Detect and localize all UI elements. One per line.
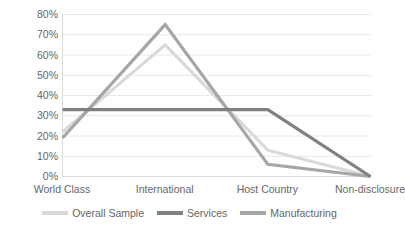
chart-legend: Overall SampleServicesManufacturing [0,203,379,223]
y-axis-tick-label: 20% [2,131,58,142]
legend-item[interactable]: Services [157,207,227,219]
x-axis-tick-label: Non-disclosure [335,183,405,195]
y-axis-tick-label: 40% [2,90,58,101]
legend-color-swatch [240,211,266,215]
legend-item[interactable]: Manufacturing [240,207,337,219]
legend-color-swatch [42,211,68,215]
legend-color-swatch [157,211,183,215]
series-line [63,25,371,177]
legend-label: Overall Sample [72,207,144,219]
x-axis-tick-label: International [136,183,194,195]
legend-label: Manufacturing [270,207,337,219]
y-axis-tick-label: 60% [2,50,58,61]
series-lines [63,25,371,177]
y-axis-tick-label: 30% [2,110,58,121]
legend-label: Services [187,207,227,219]
y-axis-tick-labels: 0%10%20%30%40%50%60%70%80% [0,0,58,232]
y-axis-tick-label: 80% [2,9,58,20]
y-axis-tick-label: 0% [2,171,58,182]
legend-item[interactable]: Overall Sample [42,207,144,219]
y-axis-tick-label: 10% [2,151,58,162]
y-axis-tick-label: 50% [2,70,58,81]
x-axis-tick-label: World Class [34,183,90,195]
x-axis-tick-label: Host Country [237,183,298,195]
x-axis-tick-labels: World ClassInternationalHost CountryNon-… [62,181,370,197]
series-line [63,110,371,177]
y-axis-tick-label: 70% [2,29,58,40]
